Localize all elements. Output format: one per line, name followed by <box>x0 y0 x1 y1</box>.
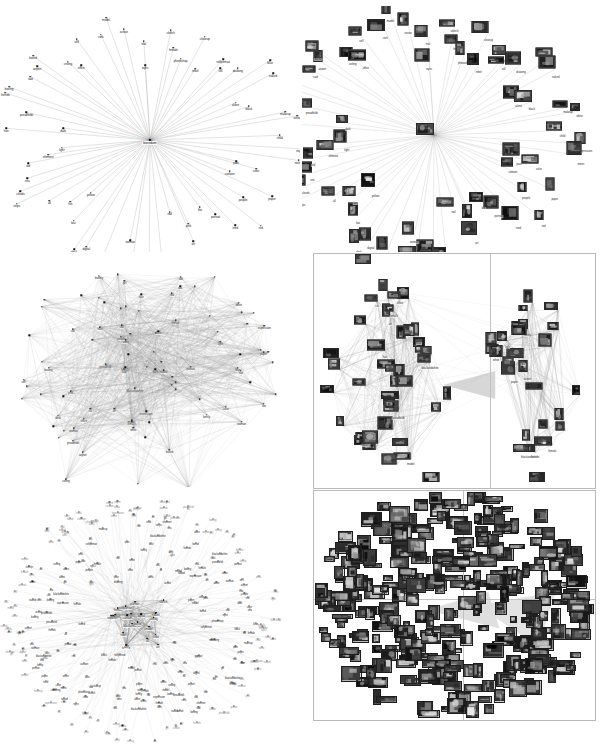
graph-node <box>165 688 166 689</box>
graph-node <box>261 646 262 647</box>
graph-node <box>59 711 60 712</box>
graph-node <box>90 716 91 717</box>
graph-node <box>38 611 39 612</box>
image-node <box>544 302 558 310</box>
graph-node <box>212 518 213 519</box>
collage-tile <box>570 652 581 659</box>
graph-node <box>235 645 236 646</box>
graph-node <box>91 542 92 543</box>
graph-node <box>241 590 242 591</box>
graph-node <box>141 294 142 295</box>
image-node <box>536 47 553 56</box>
graph-node <box>27 162 29 164</box>
graph-node <box>66 568 67 569</box>
image-node <box>546 121 562 130</box>
image-node-label: bw <box>481 207 485 210</box>
graph-node <box>91 522 92 523</box>
graph-node <box>217 620 218 621</box>
graph-node <box>180 276 181 277</box>
graph-node <box>143 549 144 550</box>
graph-node <box>76 39 78 41</box>
image-node <box>554 408 563 420</box>
image-node <box>539 56 556 69</box>
image-node <box>303 147 313 158</box>
graph-node <box>90 537 91 538</box>
graph-node <box>148 694 149 695</box>
graph-node <box>184 675 185 676</box>
graph-node <box>153 351 154 352</box>
graph-node <box>269 60 271 62</box>
image-node-label: old <box>311 164 315 167</box>
graph-node <box>52 629 53 630</box>
graph-node <box>130 740 131 741</box>
image-node <box>383 400 398 411</box>
collage-tile <box>407 538 426 553</box>
graph-node <box>157 564 158 565</box>
graph-node <box>180 58 182 60</box>
image-node <box>392 438 408 446</box>
graph-node <box>193 240 195 242</box>
graph-node <box>14 643 15 644</box>
graph-node <box>239 353 240 354</box>
graph-node <box>263 403 264 404</box>
collage-tile <box>444 681 462 691</box>
graph-node <box>206 579 207 580</box>
graph-node <box>84 662 85 663</box>
collage-tile <box>460 631 473 645</box>
graph-node <box>166 520 167 521</box>
graph-node <box>41 306 42 307</box>
collage-tile <box>329 639 340 647</box>
image-node-label: all <box>333 200 336 203</box>
collage-tile <box>444 608 454 621</box>
graph-node <box>5 92 7 94</box>
image-node <box>525 382 542 389</box>
image-node <box>321 186 334 195</box>
image-node-label: sea <box>310 179 315 182</box>
collage-tile <box>542 527 555 541</box>
graph-node <box>224 711 225 712</box>
graph-node <box>205 597 206 598</box>
graph-node <box>212 638 213 639</box>
graph-node <box>81 295 82 296</box>
graph-node <box>133 514 134 515</box>
graph-node <box>119 697 120 698</box>
image-node <box>302 99 312 108</box>
image-node <box>328 359 340 370</box>
graph-node <box>196 524 197 525</box>
graph-node <box>26 386 27 387</box>
graph-node <box>82 452 83 453</box>
graph-node <box>118 580 119 581</box>
image-node <box>514 90 532 102</box>
graph-node <box>24 571 25 572</box>
graph-node <box>275 394 276 395</box>
collage-tile <box>444 665 461 672</box>
graph-node <box>51 589 52 590</box>
graph-node <box>195 575 196 576</box>
collage-tile <box>405 647 423 661</box>
image-node <box>367 19 385 31</box>
image-node <box>320 385 334 393</box>
graph-node <box>160 568 161 569</box>
graph-node <box>44 299 45 300</box>
collage-tile <box>473 570 482 584</box>
collage-tile <box>531 628 547 640</box>
graph-node <box>247 597 248 598</box>
image-node-label: lonely <box>524 334 532 337</box>
image-node-label: yellow <box>371 195 379 198</box>
collage-tile <box>361 512 383 526</box>
image-node <box>334 130 347 143</box>
graph-node <box>219 552 220 553</box>
collage-tile <box>501 506 512 511</box>
graph-node <box>214 678 215 679</box>
image-node <box>362 430 378 443</box>
graph-node <box>58 650 59 651</box>
graph-node <box>194 68 196 70</box>
graph-node <box>130 333 131 334</box>
graph-node <box>48 367 49 368</box>
image-node-label: bar <box>356 222 361 225</box>
image-node-label: makeup <box>563 111 573 114</box>
collage-tile <box>539 546 558 560</box>
graph-node <box>108 733 109 734</box>
collage-tile <box>426 614 434 629</box>
collage-tile <box>484 704 494 714</box>
